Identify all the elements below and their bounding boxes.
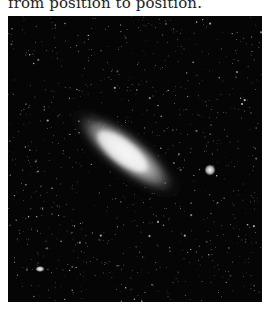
body-text-fragment: from position to position.: [8, 0, 202, 12]
galaxy-photograph: [8, 16, 262, 302]
satellite-galaxy-m32: [204, 164, 216, 176]
satellite-galaxy-m110: [35, 266, 45, 272]
galaxy-image: [8, 16, 262, 302]
